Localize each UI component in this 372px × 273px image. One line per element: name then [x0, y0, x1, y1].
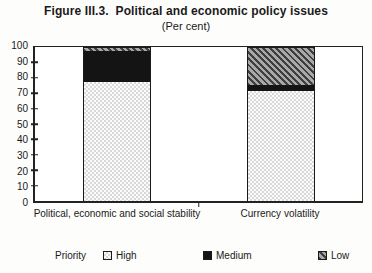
y-tick-label: 100 [0, 41, 28, 51]
stacked-bar [83, 47, 151, 201]
y-tick-label: 60 [0, 104, 28, 114]
y-tick-mark [31, 154, 38, 156]
chart-title: Figure III.3. Political and economic pol… [0, 4, 372, 18]
legend-swatch-high-icon [103, 251, 112, 260]
y-tick-label: 80 [0, 72, 28, 82]
bar-segment-medium [84, 51, 150, 82]
stacked-bar [247, 47, 315, 201]
legend-label: Low [331, 250, 349, 261]
y-tick-mark [31, 77, 38, 79]
y-tick-label: 10 [0, 182, 28, 192]
y-tick-label: 0 [0, 198, 28, 208]
y-tick-label: 20 [0, 167, 28, 177]
y-tick-label: 70 [0, 88, 28, 98]
y-tick-mark [31, 92, 38, 94]
y-tick-mark [31, 123, 38, 125]
legend-swatch-low-icon [318, 251, 327, 260]
y-tick-mark [31, 185, 38, 187]
y-axis: 0102030405060708090100 [0, 46, 30, 203]
legend-item-low: Low [318, 250, 349, 261]
y-tick-mark [31, 62, 38, 64]
legend-item-high: High [103, 250, 137, 261]
plot-area [33, 46, 363, 203]
category-label: Currency volatility [195, 207, 365, 220]
y-tick-mark [31, 139, 38, 141]
y-tick-label: 30 [0, 151, 28, 161]
legend: PriorityHighMediumLow [0, 250, 372, 266]
category-label: Political, economic and social stability [32, 207, 202, 220]
bar-segment-high [248, 91, 314, 201]
bar-segment-low [248, 48, 314, 85]
figure-iii3-chart: Figure III.3. Political and economic pol… [0, 0, 372, 273]
y-tick-label: 90 [0, 57, 28, 67]
y-tick-label: 50 [0, 120, 28, 130]
legend-item-medium: Medium [203, 250, 252, 261]
y-tick-mark [31, 169, 38, 171]
legend-label: High [116, 250, 137, 261]
legend-swatch-medium-icon [203, 251, 212, 260]
chart-subtitle: (Per cent) [0, 20, 372, 32]
legend-label: Medium [216, 250, 252, 261]
y-tick-mark [31, 108, 38, 110]
y-tick-label: 40 [0, 135, 28, 145]
legend-prefix: Priority [55, 250, 86, 261]
bar-segment-high [84, 82, 150, 201]
